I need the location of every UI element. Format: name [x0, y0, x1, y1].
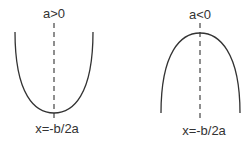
- right-panel: a<0 x=-b/2a: [161, 7, 240, 138]
- left-panel: a>0 x=-b/2a: [15, 6, 93, 136]
- parabola-diagram: a>0 x=-b/2a a<0 x=-b/2a: [0, 0, 249, 147]
- left-top-label: a>0: [43, 6, 65, 21]
- left-bottom-label: x=-b/2a: [35, 121, 79, 136]
- right-bottom-label: x=-b/2a: [182, 123, 226, 138]
- diagram-svg: a>0 x=-b/2a a<0 x=-b/2a: [0, 0, 249, 147]
- right-top-label: a<0: [189, 7, 211, 22]
